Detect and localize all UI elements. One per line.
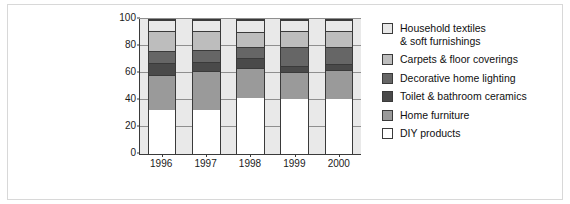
bar-segment	[237, 98, 264, 154]
bar-segment	[149, 20, 176, 31]
chart-area: 100 80 60 40 20	[111, 19, 361, 179]
legend-item-carpets-floor-coverings: Carpets & floor coverings	[382, 53, 562, 66]
xtick-label-2000: 2000	[319, 159, 359, 169]
bar-segment	[193, 62, 220, 71]
bar-segment	[326, 70, 353, 99]
stacked-bar-2000[interactable]	[325, 19, 354, 154]
ytick-label-100: 100	[119, 13, 136, 23]
bar-segment	[237, 20, 264, 32]
legend-swatch-carpets-floor-coverings	[382, 54, 393, 65]
legend-label-diy-products: DIY products	[400, 127, 461, 140]
ytick-label-80: 80	[125, 40, 136, 50]
legend-swatch-decorative-home-lighting	[382, 73, 393, 84]
legend-label-home-furniture: Home furniture	[400, 109, 469, 122]
legend-item-home-furniture: Home furniture	[382, 109, 562, 122]
bar-slot-1996	[142, 19, 182, 154]
bar-segment	[326, 99, 353, 154]
legend-item-diy-products: DIY products	[382, 127, 562, 140]
chart-figure: 100 80 60 40 20	[0, 0, 570, 204]
legend-item-household-textiles: Household textiles & soft furnishings	[382, 22, 562, 47]
bar-segment	[193, 110, 220, 154]
bar-segment	[281, 66, 308, 73]
bar-segment	[149, 51, 176, 63]
chart-legend: Household textiles & soft furnishings Ca…	[382, 22, 562, 146]
legend-item-toilet-bathroom-ceramics: Toilet & bathroom ceramics	[382, 90, 562, 103]
xtick-mark-1997	[206, 154, 207, 157]
bar-segment	[281, 72, 308, 99]
legend-label-household-textiles: Household textiles & soft furnishings	[400, 22, 486, 47]
bar-segment	[281, 20, 308, 31]
bar-segment	[193, 50, 220, 62]
plot-area: 100 80 60 40 20	[139, 19, 361, 155]
xtick-label-1996: 1996	[141, 159, 181, 169]
bar-segment	[237, 47, 264, 58]
legend-swatch-home-furniture	[382, 110, 393, 121]
bar-segment	[326, 20, 353, 31]
bar-segment	[193, 71, 220, 110]
bar-segment	[326, 47, 353, 64]
bar-group	[140, 19, 361, 154]
xtick-label-1998: 1998	[230, 159, 270, 169]
bar-slot-1999	[275, 19, 315, 154]
bar-slot-1998	[231, 19, 271, 154]
xtick-mark-1999	[295, 154, 296, 157]
ytick-label-0: 0	[130, 148, 136, 158]
legend-label-toilet-bathroom-ceramics: Toilet & bathroom ceramics	[400, 90, 527, 103]
x-axis-labels: 1996 1997 1998 1999 2000	[139, 159, 361, 169]
bar-segment	[149, 63, 176, 75]
bar-segment	[149, 110, 176, 154]
bar-segment	[281, 99, 308, 154]
bar-slot-2000	[319, 19, 359, 154]
xtick-label-1997: 1997	[186, 159, 226, 169]
legend-swatch-toilet-bathroom-ceramics	[382, 91, 393, 102]
legend-swatch-household-textiles	[382, 23, 393, 34]
bar-segment	[281, 47, 308, 66]
ytick-label-20: 20	[125, 121, 136, 131]
ytick-label-40: 40	[125, 94, 136, 104]
figure-frame: 100 80 60 40 20	[7, 4, 563, 200]
xtick-mark-1998	[250, 154, 251, 157]
stacked-bar-1999[interactable]	[280, 19, 309, 154]
xtick-label-1999: 1999	[274, 159, 314, 169]
bar-segment	[237, 68, 264, 97]
legend-label-carpets-floor-coverings: Carpets & floor coverings	[400, 53, 518, 66]
legend-item-decorative-home-lighting: Decorative home lighting	[382, 72, 562, 85]
bar-slot-1997	[186, 19, 226, 154]
bar-segment	[193, 20, 220, 31]
bar-segment	[237, 58, 264, 69]
bar-segment	[237, 32, 264, 47]
bar-segment	[281, 31, 308, 47]
bar-segment	[149, 75, 176, 110]
ytick-label-60: 60	[125, 67, 136, 77]
legend-label-decorative-home-lighting: Decorative home lighting	[400, 72, 516, 85]
stacked-bar-1998[interactable]	[236, 19, 265, 154]
legend-swatch-diy-products	[382, 128, 393, 139]
stacked-bar-1997[interactable]	[192, 19, 221, 154]
xtick-mark-2000	[339, 154, 340, 157]
bar-segment	[193, 31, 220, 50]
bar-segment	[326, 31, 353, 47]
stacked-bar-1996[interactable]	[148, 19, 177, 154]
bar-segment	[149, 31, 176, 51]
xtick-mark-1996	[162, 154, 163, 157]
